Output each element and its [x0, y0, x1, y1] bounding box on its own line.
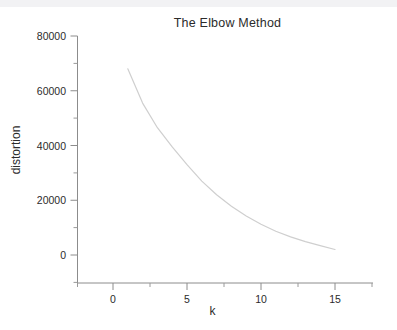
y-minor-ticks — [74, 63, 78, 282]
y-axis-label: distortion — [9, 105, 23, 195]
y-tick-label-0: 0 — [20, 249, 66, 261]
y-tick-label-80000: 80000 — [20, 30, 66, 42]
plot-area — [0, 0, 397, 330]
distortion-curve — [128, 69, 335, 250]
x-minor-ticks — [78, 283, 373, 287]
y-tick-label-60000: 60000 — [20, 85, 66, 97]
chart-figure: The Elbow Method — [0, 0, 397, 330]
y-major-ticks — [71, 36, 78, 255]
y-tick-label-20000: 20000 — [20, 194, 66, 206]
x-axis-label: k — [0, 304, 397, 318]
x-axis-label-text: k — [210, 304, 216, 318]
y-tick-label-40000: 40000 — [20, 140, 66, 152]
